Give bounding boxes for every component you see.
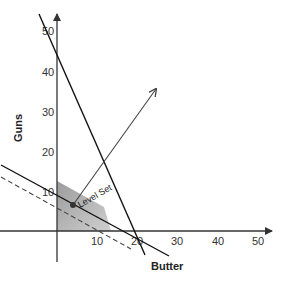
- gradient-arrow: [73, 89, 156, 205]
- x-tick-10: 10: [91, 235, 103, 247]
- y-tick-30: 30: [42, 106, 54, 118]
- x-axis-label: Butter: [151, 260, 184, 272]
- shallow-constraint-line: [1, 165, 169, 256]
- x-tick-50: 50: [252, 235, 264, 247]
- y-tick-20: 20: [42, 146, 54, 158]
- optimum-point: [70, 202, 76, 208]
- y-axis-label: Guns: [12, 114, 24, 142]
- chart: 10 20 30 40 50 10 20 30 40 50 Guns Butte…: [0, 0, 289, 288]
- x-tick-30: 30: [171, 235, 183, 247]
- x-tick-40: 40: [212, 235, 224, 247]
- y-tick-40: 40: [42, 66, 54, 78]
